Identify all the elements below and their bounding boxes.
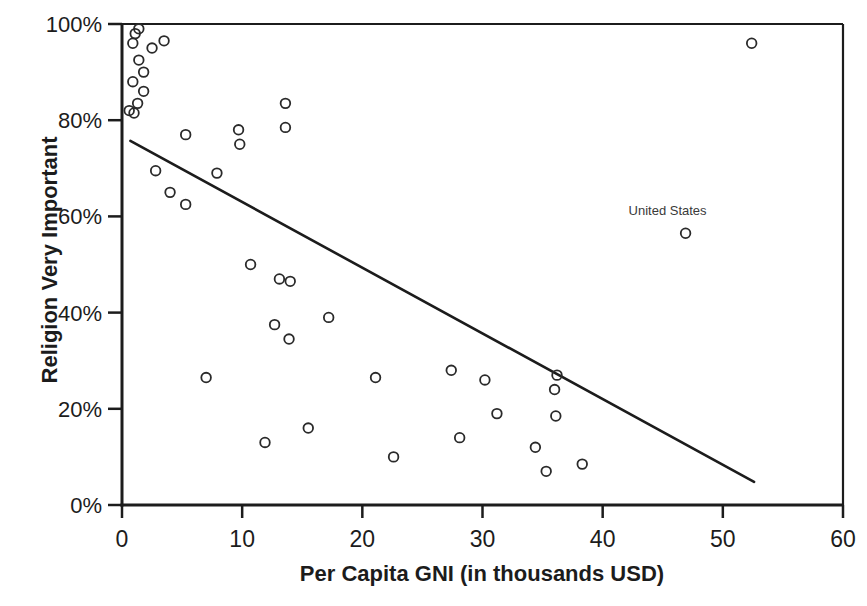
data-point bbox=[284, 334, 294, 344]
data-point bbox=[234, 125, 244, 135]
trend-line bbox=[130, 141, 754, 482]
x-axis-title: Per Capita GNI (in thousands USD) bbox=[300, 561, 664, 586]
data-points-layer bbox=[124, 24, 756, 476]
plot-frame-layer bbox=[121, 23, 845, 507]
data-point bbox=[139, 87, 149, 97]
data-point bbox=[541, 467, 551, 477]
x-tick-label: 20 bbox=[350, 526, 376, 552]
data-point bbox=[246, 260, 256, 270]
data-point bbox=[139, 67, 149, 77]
data-point bbox=[371, 373, 381, 383]
y-tick-label: 20% bbox=[58, 397, 102, 422]
data-point bbox=[455, 433, 465, 443]
data-point bbox=[446, 366, 456, 376]
data-point bbox=[212, 168, 222, 178]
y-tick-label: 80% bbox=[58, 108, 102, 133]
chart-canvas: 0%20%40%60%80%100%0102030405060 Per Capi… bbox=[0, 0, 867, 606]
trendline-layer bbox=[130, 141, 754, 482]
data-point bbox=[147, 43, 157, 53]
data-point bbox=[133, 99, 143, 109]
data-point bbox=[281, 99, 291, 109]
data-point bbox=[260, 438, 270, 448]
data-point bbox=[181, 130, 191, 140]
data-point bbox=[235, 139, 245, 149]
data-point bbox=[550, 385, 560, 395]
y-tick-label: 60% bbox=[58, 204, 102, 229]
x-tick-label: 10 bbox=[229, 526, 255, 552]
x-tick-label: 60 bbox=[830, 526, 856, 552]
y-tick-label: 40% bbox=[58, 301, 102, 326]
data-point bbox=[531, 442, 541, 452]
data-point bbox=[128, 77, 138, 87]
x-tick-label: 0 bbox=[116, 526, 129, 552]
data-point bbox=[159, 36, 169, 46]
data-point bbox=[747, 38, 757, 48]
data-point bbox=[303, 423, 313, 433]
data-point bbox=[577, 459, 587, 469]
data-point bbox=[275, 274, 285, 284]
x-tick-label: 50 bbox=[710, 526, 736, 552]
y-axis-title: Religion Very Important bbox=[37, 136, 62, 384]
data-point bbox=[285, 277, 295, 287]
y-tick-label: 100% bbox=[46, 12, 102, 37]
data-point bbox=[324, 313, 334, 323]
data-point bbox=[181, 200, 191, 210]
data-point bbox=[681, 228, 691, 238]
data-point bbox=[281, 123, 291, 133]
scatter-plot-figure: 0%20%40%60%80%100%0102030405060 Per Capi… bbox=[0, 0, 867, 606]
data-point bbox=[389, 452, 399, 462]
x-tick-label: 30 bbox=[470, 526, 496, 552]
y-tick-label: 0% bbox=[70, 493, 102, 518]
data-point bbox=[151, 166, 161, 176]
data-point bbox=[270, 320, 280, 330]
united-states-annotation: United States bbox=[629, 203, 708, 218]
x-tick-label: 40 bbox=[590, 526, 616, 552]
data-point bbox=[480, 375, 490, 385]
data-point bbox=[165, 188, 175, 198]
data-point bbox=[551, 411, 561, 421]
data-point bbox=[128, 38, 138, 48]
data-point bbox=[134, 55, 144, 65]
data-point bbox=[201, 373, 211, 383]
data-point bbox=[492, 409, 502, 419]
